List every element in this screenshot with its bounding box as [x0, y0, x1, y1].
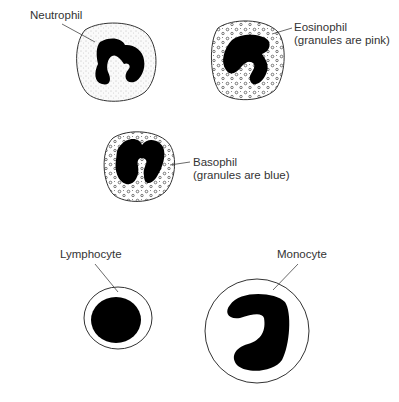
monocyte-label: Monocyte: [277, 248, 327, 261]
eosinophil-label: Eosinophil (granules are pink): [294, 21, 390, 47]
eosinophil-cell: [211, 21, 284, 100]
basophil-label: Basophil (granules are blue): [193, 156, 290, 182]
basophil-cell: [104, 132, 174, 202]
eosinophil-name: Eosinophil: [294, 21, 390, 34]
neutrophil-label: Neutrophil: [30, 9, 82, 22]
lymphocyte-label: Lymphocyte: [60, 248, 122, 261]
monocyte-cell: [205, 279, 309, 383]
basophil-name: Basophil: [193, 156, 290, 169]
monocyte-leader-line: [273, 264, 298, 290]
lymphocyte-leader-line: [95, 264, 118, 292]
lymphocyte-cell: [84, 287, 152, 349]
basophil-note: (granules are blue): [193, 169, 290, 182]
neutrophil-cell: [77, 23, 156, 101]
wbc-diagram: [0, 0, 399, 402]
eosinophil-note: (granules are pink): [294, 34, 390, 47]
